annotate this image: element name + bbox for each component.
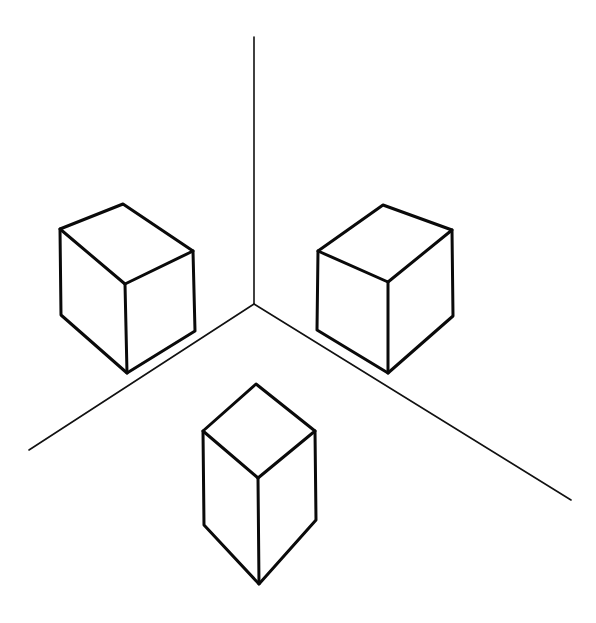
- isometric-diagram: [0, 0, 596, 623]
- left-axis: [29, 304, 254, 450]
- figure-canvas: [0, 0, 596, 623]
- left-cube: [60, 204, 195, 373]
- axes: [29, 37, 571, 500]
- bottom-prism: [203, 384, 316, 584]
- right-cube: [317, 205, 453, 373]
- right-axis: [254, 304, 571, 500]
